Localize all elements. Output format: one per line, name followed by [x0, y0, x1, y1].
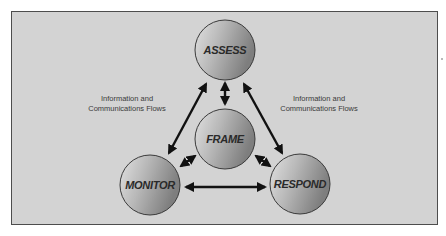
node-label-monitor: MONITOR	[110, 179, 190, 191]
diagram-canvas	[0, 0, 446, 236]
node-label-assess: ASSESS	[185, 44, 265, 56]
flow-annotation-right: Information and Communications Flows	[264, 94, 374, 114]
flow-annotation-left-line1: Information and	[72, 94, 182, 104]
flow-annotation-right-line1: Information and	[264, 94, 374, 104]
arrow-frame-monitor-icon	[181, 156, 195, 166]
flow-annotation-left-line2: Communications Flows	[72, 104, 182, 114]
flow-annotation-right-line2: Communications Flows	[264, 104, 374, 114]
risk-management-diagram: ASSESS FRAME MONITOR RESPOND Information…	[0, 0, 446, 236]
scan-artifact-dot	[441, 58, 443, 60]
arrow-frame-respond-icon	[256, 156, 270, 166]
node-label-respond: RESPOND	[260, 178, 340, 190]
flow-annotation-left: Information and Communications Flows	[72, 94, 182, 114]
node-label-frame: FRAME	[185, 133, 265, 145]
